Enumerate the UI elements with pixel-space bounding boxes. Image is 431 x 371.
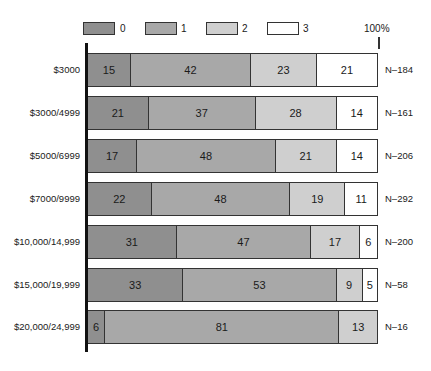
row-label: $3000 [0,53,80,87]
bar-segment-3: 5 [363,269,377,301]
bar-segment-2: 21 [276,140,337,172]
legend-label-2: 2 [242,22,248,35]
sample-size-label: N–16 [385,310,408,344]
percent-100-label: 100% [364,22,390,35]
stacked-bar: 15422321 [88,53,378,87]
bar-segment-0: 17 [88,140,137,172]
legend-swatch-1 [145,22,177,35]
stacked-bar: 335395 [88,268,378,302]
bar-segment-0: 21 [88,97,149,129]
bar-segment-3: 6 [360,226,377,258]
sample-size-label: N–161 [385,96,413,130]
bar-segment-1: 53 [183,269,336,301]
row-label: $15,000/19,999 [0,268,80,302]
sample-size-label: N–58 [385,268,408,302]
bar-segment-0: 6 [88,311,105,343]
row-label: $10,000/14,999 [0,225,80,259]
bar-segment-2: 23 [251,54,317,86]
bar-segment-2: 19 [290,183,345,215]
sample-size-label: N–184 [385,53,413,87]
legend-label-3: 3 [303,22,309,35]
bar-segment-3: 11 [345,183,377,215]
bar-segment-3: 21 [317,54,377,86]
bar-segment-0: 15 [88,54,131,86]
bar-segment-3: 14 [337,140,377,172]
sample-size-label: N–292 [385,182,413,216]
bar-segment-1: 48 [137,140,276,172]
legend-label-0: 0 [120,22,126,35]
bar-segment-1: 37 [149,97,256,129]
bar-segment-1: 48 [152,183,291,215]
bar-segment-2: 17 [311,226,360,258]
bar-segment-0: 22 [88,183,152,215]
bar-segment-1: 42 [131,54,251,86]
stacked-bar: 68113 [88,310,378,344]
bar-segment-2: 28 [256,97,337,129]
row-label: $5000/6999 [0,139,80,173]
bar-segment-0: 31 [88,226,177,258]
row-label: $7000/9999 [0,182,80,216]
bar-segment-3: 14 [337,97,377,129]
stacked-bar: 22481911 [88,182,378,216]
stacked-bar: 17482114 [88,139,378,173]
legend-swatch-0 [83,22,115,35]
stacked-bar: 3147176 [88,225,378,259]
row-label: $20,000/24,999 [0,310,80,344]
bar-segment-2: 13 [339,311,377,343]
bar-segment-0: 33 [88,269,183,301]
legend-swatch-3 [267,22,299,35]
sample-size-label: N–206 [385,139,413,173]
bar-segment-1: 81 [105,311,339,343]
percent-100-tick [378,37,380,49]
legend-label-1: 1 [181,22,187,35]
bar-segment-2: 9 [337,269,363,301]
legend-swatch-2 [206,22,238,35]
bar-segment-1: 47 [177,226,311,258]
row-label: $3000/4999 [0,96,80,130]
stacked-bar: 21372814 [88,96,378,130]
sample-size-label: N–200 [385,225,413,259]
